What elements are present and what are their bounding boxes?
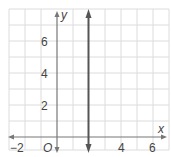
x-tick-4: 4 (118, 141, 125, 155)
x-tick-neg2: −2 (10, 141, 24, 155)
origin-label: O (43, 141, 52, 155)
y-tick-6: 6 (41, 35, 48, 49)
y-tick-4: 4 (41, 67, 48, 81)
vertical-line-x-2 (86, 9, 92, 153)
x-tick-6: 6 (149, 141, 156, 155)
y-tick-2: 2 (41, 99, 48, 113)
line-down-arrow-icon (86, 144, 92, 153)
y-axis-label: y (60, 8, 68, 22)
line-up-arrow-icon (86, 9, 92, 18)
coordinate-plane: y x 6 4 2 −2 4 6 O (0, 0, 171, 157)
y-axis (55, 11, 60, 153)
y-axis-up-arrow-icon (55, 11, 60, 17)
x-axis-label: x (157, 122, 165, 136)
